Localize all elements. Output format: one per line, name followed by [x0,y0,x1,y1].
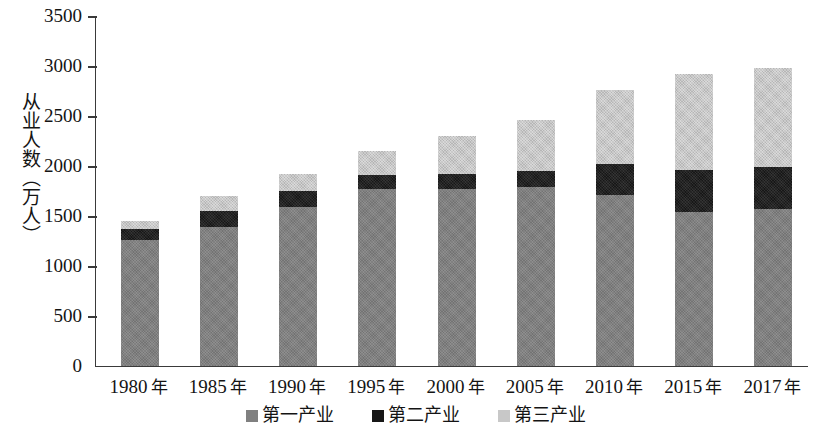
bar-segment-tertiary [596,90,634,164]
bar-segment-primary [279,207,317,366]
x-axis-labels: 1980年1985年1990年1995年2000年2005年2010年2015年… [95,374,808,402]
y-tick-label: 1000 [44,256,82,275]
legend-swatch-tertiary-icon [498,410,510,422]
chart-legend: 第一产业第二产业第三产业 [0,405,831,425]
x-axis-label: 2017年 [722,374,822,400]
bar-segment-tertiary [754,68,792,167]
bar-segment-secondary [358,175,396,189]
bar-segment-tertiary [517,120,555,171]
legend-swatch-secondary-icon [372,410,384,422]
bar-segment-secondary [754,167,792,209]
y-tick-label: 3500 [44,6,82,25]
bar-segment-primary [121,240,159,366]
bar-segment-primary [358,189,396,366]
legend-swatch-primary-icon [246,410,258,422]
legend-item-label: 第二产业 [388,405,460,425]
legend-item-label: 第三产业 [514,405,586,425]
y-tick-label: 500 [54,306,83,325]
bar-segment-secondary [596,164,634,195]
bar-series-container [96,17,808,366]
y-tick-label: 1500 [44,206,82,225]
legend-item[interactable]: 第三产业 [498,405,586,425]
bar-segment-secondary [675,170,713,212]
y-tick-label: 2500 [44,106,82,125]
bar-segment-primary [596,195,634,366]
legend-item[interactable]: 第二产业 [372,405,460,425]
legend-item[interactable]: 第一产业 [246,405,334,425]
bar-segment-secondary [121,229,159,240]
plot-area: 3500300025002000150010005000 [95,17,808,367]
bar-segment-tertiary [200,196,238,211]
bar-segment-tertiary [358,151,396,175]
bar-segment-secondary [279,191,317,207]
bar-segment-tertiary [675,74,713,170]
y-axis-title: 从业人数（万人） [10,92,40,244]
bar-segment-primary [438,189,476,366]
bar-segment-primary [200,227,238,366]
y-tick-label: 2000 [44,156,82,175]
bar-segment-secondary [200,211,238,227]
bar-segment-primary [754,209,792,366]
legend-item-label: 第一产业 [262,405,334,425]
bar-segment-tertiary [121,221,159,229]
stacked-bar-chart: 从业人数（万人） 3500300025002000150010005000 19… [0,0,831,434]
bar-segment-primary [675,212,713,366]
y-tick-label: 3000 [44,56,82,75]
bar-segment-secondary [517,171,555,187]
bar-segment-tertiary [279,174,317,191]
bar-segment-secondary [438,174,476,189]
bar-segment-tertiary [438,136,476,174]
y-tick-label: 0 [73,356,83,375]
bar-segment-primary [517,187,555,366]
